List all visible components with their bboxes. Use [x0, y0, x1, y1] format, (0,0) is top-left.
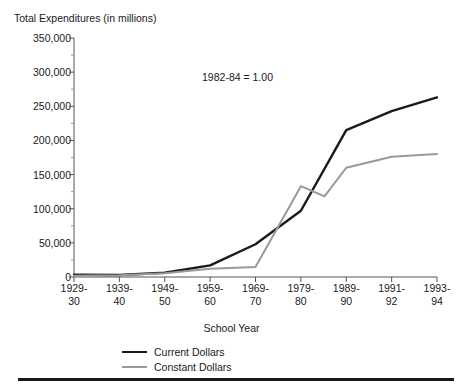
- series-lines: [74, 97, 437, 275]
- axis-lines: [74, 38, 437, 277]
- series-line-current-dollars: [74, 97, 437, 275]
- x-tick-label: 1939-40: [106, 282, 133, 307]
- footer-rule: [18, 378, 454, 381]
- chart-figure: Total Expenditures (in millions) 1982-84…: [0, 0, 463, 391]
- x-axis-label: School Year: [0, 322, 463, 334]
- x-tick-label: 1959-60: [197, 282, 224, 307]
- x-tick-label: 1949-50: [151, 282, 178, 307]
- legend-label-current-dollars: Current Dollars: [154, 346, 225, 358]
- x-tick-label: 1929-30: [61, 282, 88, 307]
- x-tick-label: 1969-70: [242, 282, 269, 307]
- x-tick-label: 1979-80: [287, 282, 314, 307]
- chart-legend: Current Dollars Constant Dollars: [122, 344, 232, 374]
- legend-label-constant-dollars: Constant Dollars: [154, 361, 232, 373]
- legend-item-constant-dollars: Constant Dollars: [122, 359, 232, 374]
- series-line-constant-dollars: [74, 154, 437, 276]
- legend-swatch-constant-dollars: [122, 366, 147, 368]
- x-tick-label: 1993-94: [424, 282, 451, 307]
- x-tick-label: 1991-92: [378, 282, 405, 307]
- legend-item-current-dollars: Current Dollars: [122, 344, 232, 359]
- legend-swatch-current-dollars: [122, 351, 147, 353]
- x-tick-label: 1989-90: [333, 282, 360, 307]
